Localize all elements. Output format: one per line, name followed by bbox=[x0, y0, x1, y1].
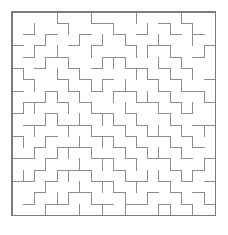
maze-graphic bbox=[0, 0, 228, 235]
maze-page bbox=[0, 0, 228, 235]
maze-canvas bbox=[0, 0, 228, 235]
